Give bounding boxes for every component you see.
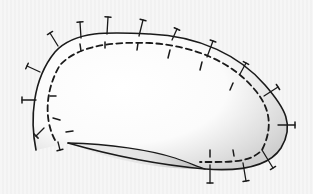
- inner-tick-mark: [66, 131, 73, 132]
- pin-icon: [77, 22, 83, 38]
- sewing-pattern-sketch: [0, 0, 313, 194]
- pin-icon: [105, 17, 111, 34]
- pin-icon: [26, 63, 40, 72]
- inner-tick-mark: [80, 44, 81, 51]
- inner-tick-mark: [137, 43, 138, 50]
- pin-icon: [47, 31, 58, 46]
- fabric-piece-fill: [33, 33, 287, 170]
- inner-tick-mark: [233, 150, 234, 156]
